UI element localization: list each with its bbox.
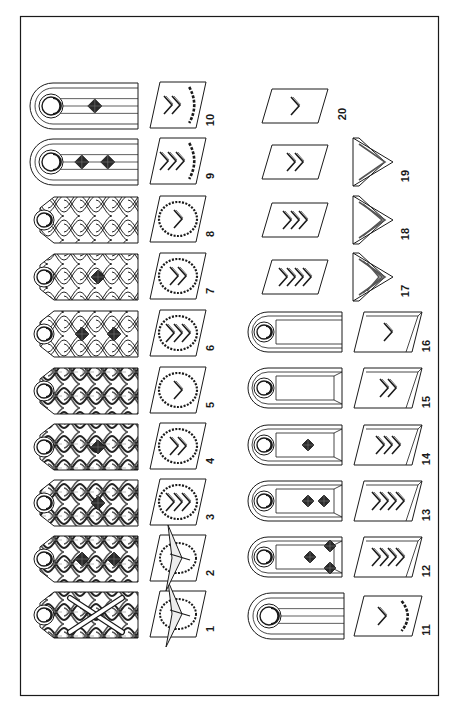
- collar-patch-20: [262, 89, 328, 123]
- item-number-label: 14: [420, 452, 432, 465]
- item-number-label: 8: [204, 231, 216, 237]
- insignia-plate: 1234567891011121314151617181920: [0, 0, 461, 712]
- item-number-label: 12: [420, 565, 432, 577]
- collar-patch-15: [354, 368, 422, 408]
- item-number-label: 5: [204, 402, 216, 408]
- item-number-label: 19: [399, 170, 411, 182]
- item-number-label: 2: [204, 570, 216, 576]
- item-number-label: 16: [420, 340, 432, 352]
- shoulder-board-6: [34, 311, 138, 357]
- collar-patch-6: [150, 310, 206, 356]
- collar-patch-8: [150, 196, 206, 242]
- item-number-label: 18: [399, 228, 411, 240]
- shoulder-board-11: [248, 593, 344, 639]
- sleeve-chevron-19: [353, 138, 393, 186]
- shoulder-board-12: [248, 537, 342, 577]
- item-number-label: 17: [399, 285, 411, 297]
- shoulder-board-1: [34, 592, 138, 638]
- shoulder-board-8: [34, 197, 138, 243]
- item-number-label: 6: [204, 345, 216, 351]
- item-number-label: 3: [204, 514, 216, 520]
- collar-patch-5: [150, 367, 206, 413]
- shoulder-board-14: [248, 425, 342, 465]
- shoulder-board-13: [248, 481, 342, 521]
- collar-patch-13: [354, 481, 422, 521]
- collar-patch-10: [150, 82, 206, 128]
- collar-patch-3: [150, 479, 206, 525]
- collar-patch-19: [262, 145, 328, 179]
- item-number-label: 1: [204, 626, 216, 632]
- collar-patch-17: [262, 260, 328, 294]
- item-number-label: 7: [204, 288, 216, 294]
- collar-patch-18: [262, 203, 328, 237]
- collar-patch-12: [354, 537, 422, 577]
- item-number-label: 15: [420, 396, 432, 408]
- collar-patch-16: [354, 312, 422, 352]
- collar-patch-2: [150, 525, 206, 591]
- item-number-label: 13: [420, 509, 432, 521]
- collar-patch-4: [150, 423, 206, 469]
- shoulder-board-3: [34, 480, 138, 526]
- collar-patch-1: [150, 581, 206, 647]
- shoulder-board-5: [34, 368, 138, 414]
- collar-patch-9: [150, 138, 206, 184]
- shoulder-board-9: [30, 139, 138, 185]
- item-number-label: 11: [420, 624, 432, 636]
- item-number-label: 20: [336, 108, 348, 120]
- shoulder-board-15: [248, 368, 342, 408]
- sleeve-chevron-18: [353, 196, 393, 244]
- shoulder-board-7: [34, 254, 138, 300]
- collar-patch-11: [354, 596, 422, 636]
- shoulder-board-2: [34, 536, 138, 582]
- shoulder-board-16: [248, 312, 342, 352]
- sleeve-chevron-17: [353, 253, 393, 301]
- item-number-label: 4: [204, 457, 216, 464]
- plate-content: 1234567891011121314151617181920: [30, 82, 432, 647]
- shoulder-board-4: [34, 424, 138, 470]
- item-number-label: 10: [204, 114, 216, 126]
- shoulder-board-10: [30, 83, 138, 129]
- collar-patch-7: [150, 253, 206, 299]
- item-number-label: 9: [204, 173, 216, 179]
- collar-patch-14: [354, 425, 422, 465]
